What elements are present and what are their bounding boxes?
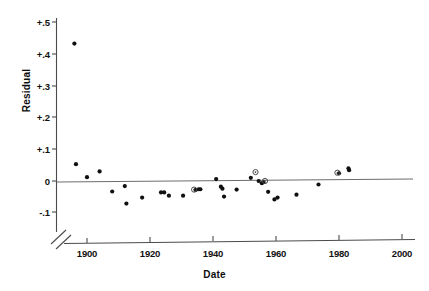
data-point [275, 195, 279, 199]
x-axis-spine [64, 240, 415, 244]
data-point [167, 194, 171, 198]
plot-canvas [0, 0, 429, 291]
data-point [235, 187, 239, 191]
data-point-open-center [193, 189, 195, 191]
data-point [220, 187, 224, 191]
data-point-open-center [255, 171, 257, 173]
data-point [110, 189, 114, 193]
data-point [198, 187, 202, 191]
data-point [266, 190, 270, 194]
data-point [123, 184, 127, 188]
scatter-plot-figure: Residual Date +.5 +.4 +.3 +.2 +.1 0 -.1 … [0, 0, 429, 291]
data-point-open-center [337, 172, 339, 174]
zero-reference-line [57, 179, 413, 182]
data-point [98, 169, 102, 173]
data-point-open-center [264, 180, 266, 182]
data-point [72, 42, 76, 46]
data-point [249, 176, 253, 180]
data-point [124, 201, 128, 205]
data-point [316, 182, 320, 186]
data-point [347, 168, 351, 172]
data-point [294, 193, 298, 197]
data-point [140, 195, 144, 199]
data-point [222, 194, 226, 198]
data-point [85, 175, 89, 179]
data-point [214, 177, 218, 181]
data-point [162, 190, 166, 194]
data-point [74, 162, 78, 166]
data-point [181, 194, 185, 198]
